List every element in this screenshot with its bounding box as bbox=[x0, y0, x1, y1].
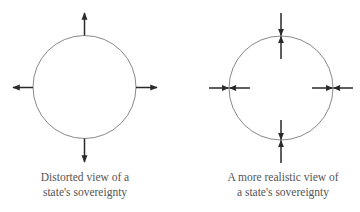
state-boundary-circle bbox=[33, 36, 136, 139]
realistic-view-caption: A more realistic view of a state's sover… bbox=[203, 170, 360, 200]
caption-line: a state's sovereignty bbox=[203, 185, 360, 200]
caption-line: state's sovereignty bbox=[5, 185, 165, 200]
distorted-view-caption: Distorted view of a state's sovereignty bbox=[5, 170, 165, 200]
caption-line: A more realistic view of bbox=[203, 170, 360, 185]
caption-line: Distorted view of a bbox=[5, 170, 165, 185]
distorted-view-figure bbox=[13, 13, 157, 162]
realistic-view-figure bbox=[209, 13, 353, 163]
